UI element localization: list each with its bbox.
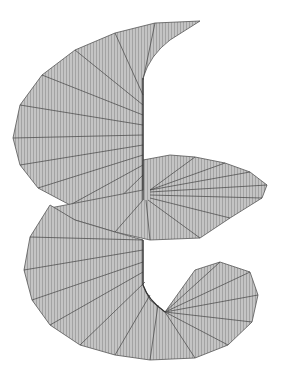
helicoid-figure (0, 0, 281, 384)
